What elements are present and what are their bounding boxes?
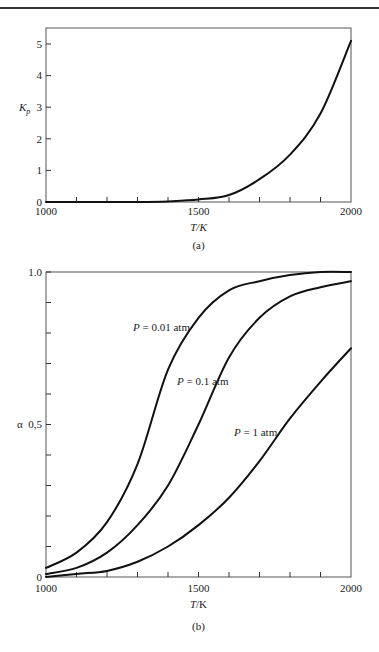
y-axis-ticks [46,44,51,170]
x-axis-title: T/K [190,221,207,233]
curve-p-0-01-atm [46,272,351,568]
x-tick-label-2000: 2000 [340,582,363,594]
x-axis-title-unit: /K [196,598,207,610]
x-axis-ticks [77,572,321,577]
y-tick-label-3: 3 [37,101,43,113]
plot-frame [46,28,351,202]
y-axis-ticks [46,272,51,547]
y-axis-title: α [17,418,23,430]
series-label-p-0-01-atm: P = 0.01 atm [132,321,190,333]
y-tick-label-0-5: 0,5 [28,418,42,430]
series-label-p-0-1-atm: P = 0.1 atm [176,375,229,387]
y-tick-label-1-0: 1.0 [28,266,42,278]
curve-p-0-1-atm [46,281,351,574]
series-label-p-1-atm: P = 1 atm [233,426,278,438]
x-tick-label-1500: 1500 [188,582,211,594]
y-tick-label-4: 4 [37,69,43,81]
panel-caption-a: (a) [192,239,205,252]
kp-vs-temperature-chart: 1000 1500 2000 0 1 2 3 4 5 Kp T/K (a) [0,0,379,255]
kp-curve [46,41,351,202]
y-axis-title-subscript: p [25,107,30,116]
x-tick-label-2000: 2000 [340,205,363,217]
y-tick-label-1: 1 [37,164,43,176]
alpha-vs-temperature-chart: 1000 1500 2000 0 0,5 1.0 α T/K (b) P = 0… [0,255,379,652]
panel-caption-b: (b) [192,620,205,633]
y-tick-label-2: 2 [37,133,43,145]
y-axis-title: Kp [18,101,30,116]
y-tick-label-5: 5 [37,38,43,50]
x-tick-label-1000: 1000 [35,582,58,594]
x-axis-title: T/K [190,598,207,610]
y-tick-label-0: 0 [37,571,43,583]
y-tick-label-0: 0 [37,196,43,208]
x-tick-label-1500: 1500 [188,205,211,217]
